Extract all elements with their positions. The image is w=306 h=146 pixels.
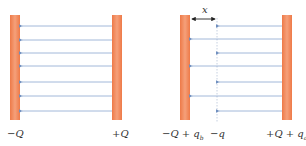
label-right-plate-sub: a	[304, 134, 306, 141]
label-right-plate-charge: +Q + qa	[266, 128, 306, 141]
label-right-plate-main: +Q + q	[266, 128, 304, 139]
right-capacitor-with-dielectric	[180, 15, 292, 122]
field-lines	[192, 26, 282, 111]
label-left-plate-main: −Q + q	[162, 128, 200, 139]
label-induced-charge: −q	[210, 128, 225, 139]
label-left-plate-sub: b	[200, 134, 204, 141]
left-capacitor	[10, 15, 122, 120]
negative-plate	[10, 15, 20, 120]
label-positive-charge: +Q	[112, 128, 129, 139]
label-dimension-x: x	[202, 4, 208, 15]
label-negative-charge: −Q	[7, 128, 24, 139]
label-left-plate-charge: −Q + qb	[162, 128, 204, 141]
capacitor-diagram	[0, 0, 306, 146]
positive-plate	[282, 15, 292, 120]
field-lines	[22, 26, 112, 111]
negative-plate	[180, 15, 190, 120]
positive-plate	[112, 15, 122, 120]
